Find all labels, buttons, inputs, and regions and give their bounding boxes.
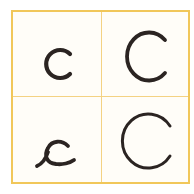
cell-top-right-uppercase-c [127, 33, 165, 81]
cell-bottom-right-uppercase-c [122, 114, 170, 168]
letter-glyphs [0, 0, 194, 194]
cell-bottom-left-cursive-c [37, 142, 74, 166]
cell-top-left-lowercase-c [46, 50, 70, 78]
